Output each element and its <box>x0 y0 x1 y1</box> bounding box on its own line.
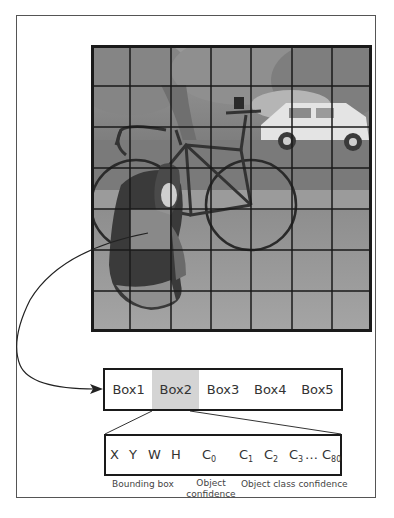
vector-c3: C3 <box>289 447 303 464</box>
c0-base: C <box>202 447 211 462</box>
vector-x: X <box>110 447 119 462</box>
vector-h: H <box>171 447 181 462</box>
vector-c80: C80 <box>322 447 341 464</box>
c80-sub: 80 <box>331 455 341 464</box>
c1-base: C <box>239 447 248 462</box>
box-cell-4: Box4 <box>247 370 294 409</box>
highlighted-grid-cell <box>130 209 170 250</box>
vector-y: Y <box>129 447 137 462</box>
c3-sub: 3 <box>298 455 303 464</box>
c3-base: C <box>289 447 298 462</box>
label-class-confidence: Object class confidence <box>241 479 348 490</box>
c1-sub: 1 <box>248 455 253 464</box>
c2-sub: 2 <box>273 455 278 464</box>
label-object-confidence: Object confidence <box>186 478 236 500</box>
c2-base: C <box>264 447 273 462</box>
label-object-confidence-line1: Object <box>186 478 236 489</box>
prediction-vector: X Y W H C0 C1 C2 C3 … C80 <box>104 434 342 476</box>
box-cell-3: Box3 <box>199 370 246 409</box>
box-cell-2-highlighted: Box2 <box>152 370 199 409</box>
vector-ellipsis: … <box>305 447 318 462</box>
photo-illustration <box>91 45 372 332</box>
c0-sub: 0 <box>211 455 216 464</box>
scene-photo <box>91 45 372 332</box>
anchor-box-bar: Box1 Box2 Box3 Box4 Box5 <box>103 368 343 411</box>
c80-base: C <box>322 447 331 462</box>
vector-w: W <box>148 447 161 462</box>
box-cell-5: Box5 <box>294 370 341 409</box>
label-bounding-box: Bounding box <box>112 479 174 490</box>
vector-c2: C2 <box>264 447 278 464</box>
vector-c0: C0 <box>202 447 216 464</box>
box-cell-1: Box1 <box>105 370 152 409</box>
vector-c1: C1 <box>239 447 253 464</box>
label-object-confidence-line2: confidence <box>186 489 236 500</box>
